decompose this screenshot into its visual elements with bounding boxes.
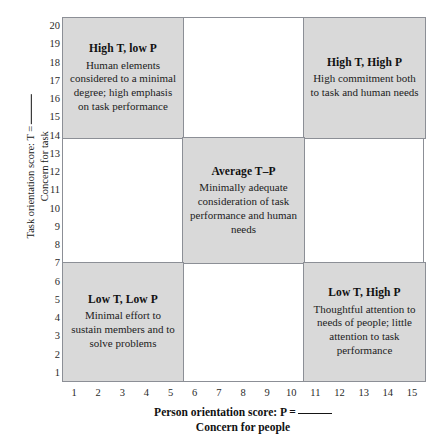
x-axis-title: Person orientation score: P = Concern fo…: [62, 405, 424, 434]
cell-top-middle-empty: [183, 18, 304, 138]
x-tick-14: 14: [375, 388, 401, 399]
y-tick-15: 15: [38, 112, 60, 123]
cell-body: Minimally adequate consideration of task…: [189, 181, 298, 236]
y-tick-11: 11: [38, 185, 60, 196]
cell-body: Minimal effort to sustain members and to…: [69, 309, 177, 351]
x-tick-3: 3: [109, 388, 135, 399]
y-axis-ticks: 1234567891011121314151617181920: [30, 17, 60, 382]
cell-title: Low T, Low P: [88, 293, 158, 307]
cell-high-t-low-p: High T, low P Human elements considered …: [63, 18, 183, 138]
cell-body: Human elements considered to a minimal d…: [69, 59, 177, 114]
x-tick-10: 10: [278, 388, 304, 399]
cell-title: Low T, High P: [328, 286, 400, 300]
y-tick-13: 13: [38, 149, 60, 160]
y-tick-3: 3: [38, 331, 60, 342]
x-tick-9: 9: [254, 388, 280, 399]
y-tick-1: 1: [38, 368, 60, 379]
cell-low-t-low-p: Low T, Low P Minimal effort to sustain m…: [63, 263, 183, 381]
x-axis-ticks: 123456789101112131415: [62, 388, 424, 402]
grid-plot-area: High T, low P Human elements considered …: [62, 17, 424, 382]
x-tick-13: 13: [351, 388, 377, 399]
x-tick-4: 4: [133, 388, 159, 399]
cell-middle-left-empty: [63, 138, 183, 263]
leadership-grid-figure: Task orientation score: T = Concern for …: [0, 0, 444, 434]
y-tick-6: 6: [38, 276, 60, 287]
x-axis-title-text: Person orientation score: P =: [154, 406, 296, 418]
cell-high-t-high-p: High T, High P High commitment both to t…: [304, 18, 425, 138]
x-tick-7: 7: [206, 388, 232, 399]
y-tick-2: 2: [38, 349, 60, 360]
cell-title: High T, High P: [327, 56, 402, 70]
x-tick-12: 12: [327, 388, 353, 399]
cell-title: Average T–P: [211, 165, 275, 179]
y-tick-12: 12: [38, 167, 60, 178]
cell-body: Thoughtful attention to needs of people;…: [310, 303, 419, 358]
x-tick-5: 5: [158, 388, 184, 399]
cell-bottom-middle-empty: [183, 263, 304, 381]
cell-average-t-p: Average T–P Minimally adequate considera…: [183, 138, 304, 263]
x-tick-2: 2: [85, 388, 111, 399]
y-tick-16: 16: [38, 94, 60, 105]
y-tick-8: 8: [38, 240, 60, 251]
x-axis-blank-rule: [298, 413, 332, 414]
y-tick-4: 4: [38, 313, 60, 324]
x-axis-title-line1: Person orientation score: P =: [62, 405, 424, 420]
cell-body: High commitment both to task and human n…: [310, 72, 419, 100]
y-tick-9: 9: [38, 222, 60, 233]
x-tick-11: 11: [302, 388, 328, 399]
cell-low-t-high-p: Low T, High P Thoughtful attention to ne…: [304, 263, 425, 381]
cell-title: High T, low P: [89, 42, 157, 56]
cell-middle-right-empty: [304, 138, 425, 263]
y-tick-20: 20: [38, 21, 60, 32]
y-tick-7: 7: [38, 258, 60, 269]
y-tick-18: 18: [38, 57, 60, 68]
y-tick-17: 17: [38, 76, 60, 87]
x-tick-1: 1: [61, 388, 87, 399]
x-tick-6: 6: [182, 388, 208, 399]
y-tick-10: 10: [38, 203, 60, 214]
x-tick-8: 8: [230, 388, 256, 399]
y-tick-14: 14: [38, 130, 60, 141]
x-axis-title-line2: Concern for people: [62, 420, 424, 434]
y-tick-19: 19: [38, 39, 60, 50]
x-tick-15: 15: [399, 388, 425, 399]
y-tick-5: 5: [38, 295, 60, 306]
